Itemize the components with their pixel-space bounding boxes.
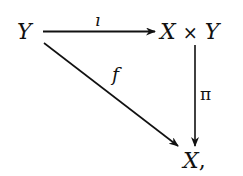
node-product-right: Y bbox=[205, 19, 220, 44]
node-target-x: X, bbox=[183, 150, 206, 172]
times-symbol: × bbox=[183, 22, 198, 43]
node-source-y: Y bbox=[17, 21, 32, 43]
node-product: X × Y bbox=[160, 21, 219, 44]
node-source-label: Y bbox=[17, 19, 32, 44]
node-product-left: X bbox=[160, 19, 176, 44]
label-f: f bbox=[112, 66, 119, 83]
arrow-diagonal-f bbox=[44, 43, 178, 146]
node-target-label: X bbox=[183, 148, 199, 173]
node-target-punct: , bbox=[199, 148, 206, 173]
label-inclusion: ı bbox=[95, 12, 100, 29]
label-pi: π bbox=[200, 86, 211, 103]
